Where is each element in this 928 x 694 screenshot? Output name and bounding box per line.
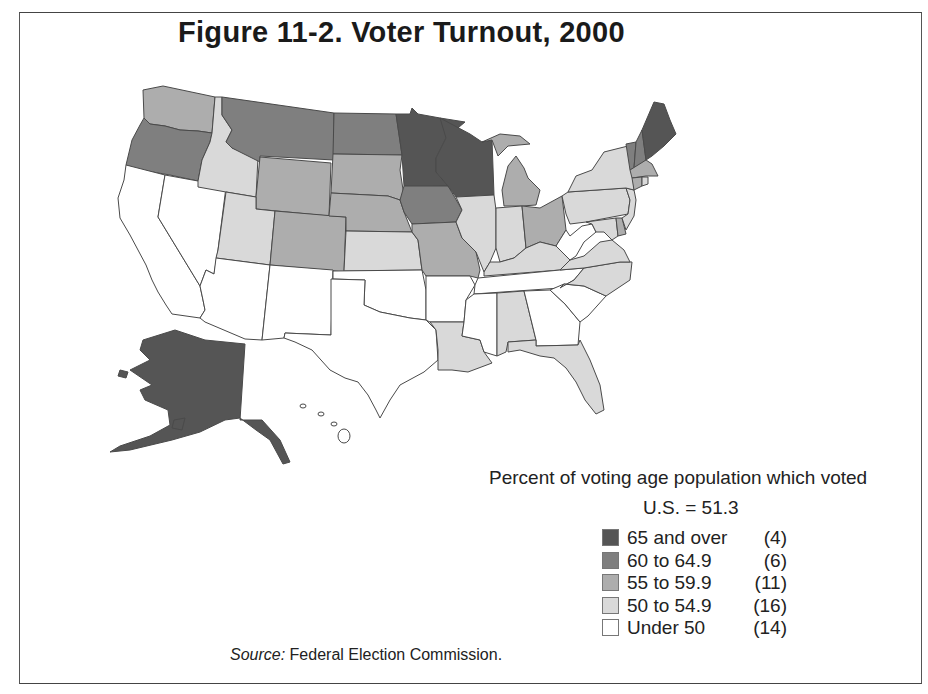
state-connecticut [632,177,642,190]
legend-count: (14) [753,617,787,639]
legend-label: 50 to 54.9 [627,595,712,617]
state-hawaii-maui [331,422,337,426]
state-michigan-lower [502,156,540,206]
state-maine [642,102,676,160]
state-alaska [110,330,290,464]
state-hawaii-kauai [300,404,306,408]
source-text: Federal Election Commission. [285,646,502,663]
legend-swatch [602,574,619,591]
state-new-york [568,146,634,192]
legend-label: 65 and over [627,527,727,549]
legend-count: (4) [764,527,787,549]
legend-item: 55 to 59.9 (11) [602,572,802,595]
legend-swatch [602,597,619,614]
state-hawaii [338,429,350,443]
state-wyoming [256,157,331,216]
legend-count: (11) [755,572,787,594]
state-north-dakota [333,113,402,155]
legend-swatch [602,529,619,546]
legend-label: 60 to 64.9 [627,550,712,572]
source-note: Source: Federal Election Commission. [230,646,502,664]
state-hawaii-oahu [318,412,324,416]
state-florida [508,340,604,414]
legend-label: 55 to 59.9 [627,572,712,594]
legend-label: Under 50 [627,617,705,639]
legend: 65 and over (4) 60 to 64.9 (6) 55 to 59.… [602,527,802,640]
legend-item: 65 and over (4) [602,527,802,550]
state-colorado [270,211,346,272]
legend-item: 50 to 54.9 (16) [602,595,802,618]
legend-us-average: U.S. = 51.3 [643,497,739,519]
legend-swatch [602,619,619,636]
legend-count: (6) [764,550,787,572]
state-rhode-island [642,177,648,186]
legend-item: Under 50 (14) [602,617,802,640]
state-alaska-island [118,370,128,378]
legend-count: (16) [753,595,787,617]
legend-item: 60 to 64.9 (6) [602,550,802,573]
source-label: Source: [230,646,285,663]
legend-title: Percent of voting age population which v… [489,467,867,489]
state-new-mexico [262,265,333,340]
legend-swatch [602,552,619,569]
state-kansas [344,231,422,271]
